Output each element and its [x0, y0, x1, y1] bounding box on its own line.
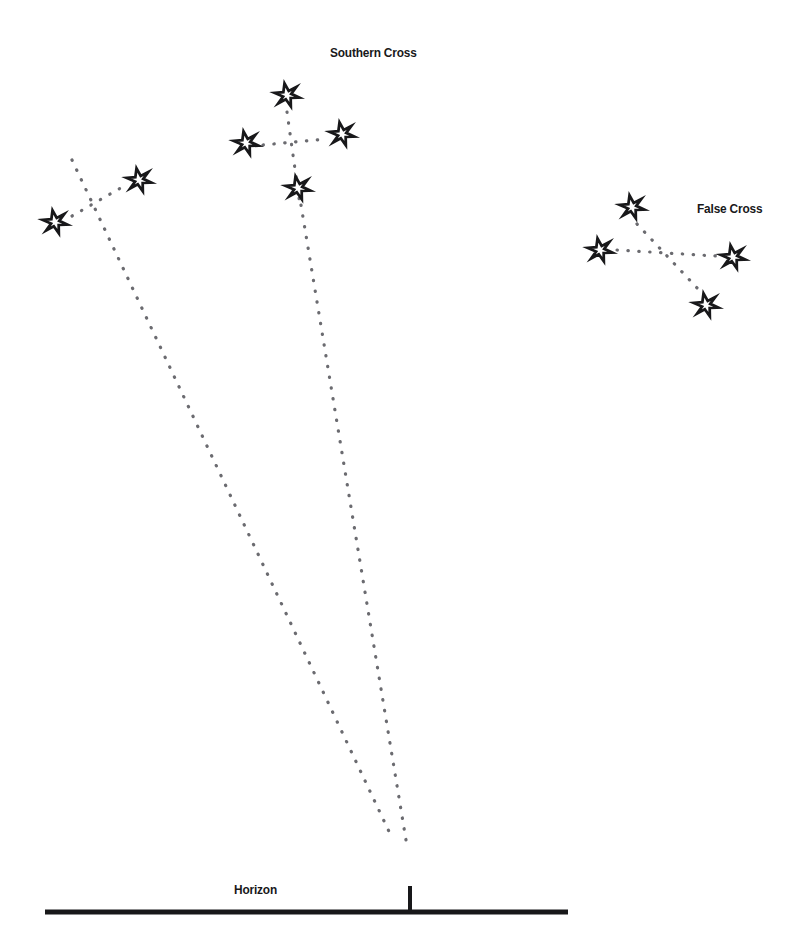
line-pointers-link: [72, 186, 124, 216]
label-southern-cross: Southern Cross: [330, 45, 417, 60]
line-southern-cross-long-line: [301, 205, 406, 840]
line-false-cross-diagonal: [637, 224, 699, 290]
label-false-cross: False Cross: [697, 201, 762, 216]
star-chart-diagram: Southern Cross False Cross Horizon: [0, 0, 811, 931]
star-southern-cross-right: [328, 120, 355, 148]
star-pointers-far-pointer: [41, 208, 68, 236]
star-pointers-near-pointer: [125, 166, 152, 194]
constellation-dotted-lines: [72, 112, 716, 840]
star-southern-cross-top: [273, 81, 300, 109]
line-pointer-long-line: [72, 160, 393, 840]
star-false-cross-right: [719, 243, 746, 271]
pointer-stars: [41, 166, 152, 236]
star-false-cross-bottom: [692, 291, 719, 319]
star-southern-cross-left: [232, 129, 259, 157]
line-southern-cross-horizontal: [263, 139, 327, 145]
southern-cross-stars: [232, 81, 355, 202]
horizon-line-group: [45, 886, 568, 912]
label-horizon: Horizon: [234, 882, 277, 897]
sky-canvas: [0, 0, 811, 931]
star-false-cross-left: [586, 236, 613, 264]
star-false-cross-top: [618, 193, 645, 221]
